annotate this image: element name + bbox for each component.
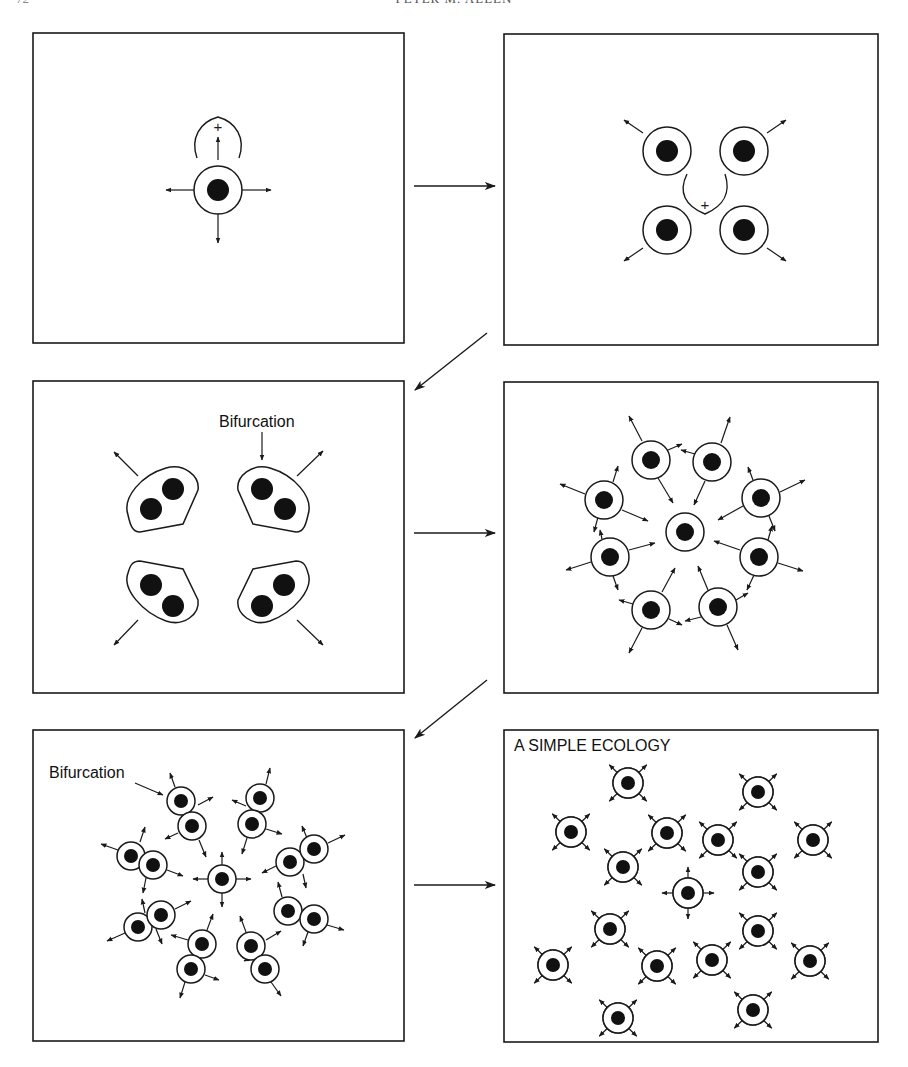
cell: [251, 955, 279, 983]
cell: [608, 852, 638, 882]
cell-nucleus: [733, 140, 755, 162]
panels-layer: ++BifurcationBifurcationA SIMPLE ECOLOGY: [33, 33, 878, 1042]
cell: [743, 857, 773, 887]
cell: [300, 835, 328, 863]
cell-nucleus: [752, 489, 770, 507]
cell-nucleus: [245, 817, 259, 831]
cell: [795, 946, 825, 976]
cell: [798, 825, 828, 855]
panel-1: +: [33, 33, 404, 343]
cell-nucleus: [207, 179, 229, 201]
cell-nucleus: [283, 855, 297, 869]
cell: [642, 951, 672, 981]
transition-arrow-icon: [415, 680, 487, 738]
plus-sign-icon: +: [214, 118, 223, 135]
cell: [693, 443, 731, 481]
cell: [246, 784, 274, 812]
cell: [603, 1003, 633, 1033]
cell-nucleus: [307, 842, 321, 856]
cell-nucleus: [703, 453, 721, 471]
cell-nucleus: [751, 924, 765, 938]
cell-nucleus: [595, 491, 613, 509]
cell: [673, 878, 703, 908]
cell-nucleus: [244, 939, 258, 953]
cell-nucleus: [131, 920, 145, 934]
cell-nucleus: [307, 912, 321, 926]
panel-2: +: [504, 34, 878, 345]
cell-nucleus: [546, 958, 560, 972]
cell-nucleus: [162, 595, 184, 617]
cell: [740, 538, 778, 576]
cell: [194, 166, 242, 214]
cell-nucleus: [154, 908, 168, 922]
cell-nucleus: [601, 548, 619, 566]
panel-3: Bifurcation: [33, 381, 404, 693]
cell: [632, 441, 670, 479]
bifurcation-label: Bifurcation: [49, 764, 125, 781]
cell: [738, 995, 768, 1025]
cell-nucleus: [253, 791, 267, 805]
cell-nucleus: [660, 826, 674, 840]
ecology-title: A SIMPLE ECOLOGY: [514, 737, 671, 754]
cell: [147, 901, 175, 929]
cell-nucleus: [273, 574, 295, 596]
cell: [743, 777, 773, 807]
cell-nucleus: [806, 833, 820, 847]
cell: [613, 768, 643, 798]
cell-nucleus: [650, 959, 664, 973]
cell-nucleus: [711, 833, 725, 847]
cell-nucleus: [215, 872, 229, 886]
cell-nucleus: [611, 1011, 625, 1025]
cell: [188, 930, 216, 958]
cell-nucleus: [281, 904, 295, 918]
cell-nucleus: [603, 922, 617, 936]
cell: [652, 818, 682, 848]
figure-diagram: ++BifurcationBifurcationA SIMPLE ECOLOGY: [0, 0, 908, 1067]
cell-nucleus: [746, 1003, 760, 1017]
cell-nucleus: [642, 601, 660, 619]
cell-nucleus: [251, 478, 273, 500]
cell: [703, 825, 733, 855]
cell-nucleus: [124, 849, 138, 863]
cell: [699, 588, 737, 626]
cell-nucleus: [274, 498, 296, 520]
panel-4: [504, 382, 878, 693]
cell-nucleus: [656, 219, 678, 241]
cell-nucleus: [733, 219, 755, 241]
cell: [742, 479, 780, 517]
transition-arrows: [414, 186, 495, 885]
cell-nucleus: [184, 962, 198, 976]
cell-nucleus: [146, 858, 160, 872]
cell-nucleus: [709, 598, 727, 616]
cell: [585, 481, 623, 519]
cell-nucleus: [751, 865, 765, 879]
cell: [743, 916, 773, 946]
panel-frame: [504, 34, 878, 345]
cell-nucleus: [251, 595, 273, 617]
cell-nucleus: [803, 954, 817, 968]
cell-nucleus: [140, 574, 162, 596]
cell-nucleus: [564, 825, 578, 839]
cell: [632, 591, 670, 629]
cell: [178, 812, 206, 840]
cell-nucleus: [705, 953, 719, 967]
cell-nucleus: [616, 860, 630, 874]
cell: [208, 865, 236, 893]
cell-nucleus: [162, 478, 184, 500]
cell: [643, 206, 691, 254]
cell-nucleus: [681, 886, 695, 900]
cell: [300, 905, 328, 933]
cell: [139, 851, 167, 879]
cell: [238, 810, 266, 838]
cell-nucleus: [676, 523, 694, 541]
cell-nucleus: [750, 548, 768, 566]
cell: [556, 817, 586, 847]
cell: [274, 897, 302, 925]
cell-nucleus: [258, 962, 272, 976]
cell-nucleus: [185, 819, 199, 833]
cell-nucleus: [751, 785, 765, 799]
panel-5: Bifurcation: [33, 730, 404, 1041]
cell: [538, 950, 568, 980]
cell: [643, 127, 691, 175]
cell: [591, 538, 629, 576]
